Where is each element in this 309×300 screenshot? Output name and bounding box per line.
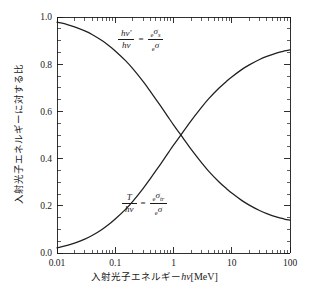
upper-equals: = bbox=[134, 34, 147, 44]
x-tick-label: 10 bbox=[227, 258, 237, 268]
y-tick-label: 0.0 bbox=[40, 248, 52, 258]
x-tick-label: 1 bbox=[171, 258, 176, 268]
y-tick-label: 1.0 bbox=[40, 12, 52, 22]
x-axis-title: 入射光子エネルギーhν[MeV] bbox=[0, 271, 309, 283]
upper-formula-right-fraction: eσs eσ bbox=[148, 26, 164, 52]
annotation-lower-formula: T hν = eσtr eσ bbox=[122, 190, 167, 216]
y-axis-title-jp: 入射光子エネルギーに対する比 bbox=[13, 64, 24, 204]
x-tick-label: 0.01 bbox=[49, 258, 66, 268]
upper-den-right: eσ bbox=[149, 40, 162, 52]
y-axis-title: 入射光子エネルギーに対する比 bbox=[13, 19, 25, 249]
curve-scattered-photon-fraction bbox=[57, 22, 290, 220]
y-tick-label: 0.4 bbox=[40, 154, 52, 164]
lower-equals: = bbox=[137, 198, 150, 208]
lower-num-left: T bbox=[124, 192, 135, 202]
x-axis-title-jp: 入射光子エネルギー bbox=[91, 271, 181, 282]
annotation-upper-formula: hν′ hν = eσs eσ bbox=[118, 26, 163, 52]
upper-formula-left-fraction: hν′ hν bbox=[118, 28, 134, 50]
y-major-ticks bbox=[57, 17, 290, 253]
y-tick-label: 0.6 bbox=[40, 107, 52, 117]
y-tick-label: 0.2 bbox=[40, 201, 52, 211]
upper-den-left: hν bbox=[119, 40, 134, 50]
y-tick-label: 0.8 bbox=[40, 60, 52, 70]
y-tick-labels: 0.00.20.40.60.81.0 bbox=[40, 12, 52, 258]
lower-formula-right-fraction: eσtr eσ bbox=[150, 190, 168, 216]
y-minor-ticks bbox=[57, 29, 290, 241]
x-axis-ticks bbox=[57, 17, 290, 253]
x-tick-labels: 0.010.1110100 bbox=[49, 258, 298, 268]
upper-num-right: eσs bbox=[148, 26, 164, 38]
lower-formula-left-fraction: T hν bbox=[122, 192, 137, 214]
chart-figure: 0.010.1110100 0.00.20.40.60.81.0 hν′ hν … bbox=[0, 0, 309, 300]
curve-transferred-energy-fraction bbox=[57, 50, 290, 248]
x-tick-label: 0.1 bbox=[109, 258, 121, 268]
lower-den-right: eσ bbox=[152, 204, 165, 216]
x-axis-title-symbol: hν bbox=[181, 271, 190, 282]
lower-den-left: hν bbox=[122, 204, 137, 214]
axis-frame bbox=[57, 17, 290, 253]
x-tick-label: 100 bbox=[283, 258, 298, 268]
lower-num-right: eσtr bbox=[150, 190, 168, 202]
upper-num-left: hν′ bbox=[118, 28, 134, 38]
x-axis-title-unit: [MeV] bbox=[191, 271, 218, 282]
